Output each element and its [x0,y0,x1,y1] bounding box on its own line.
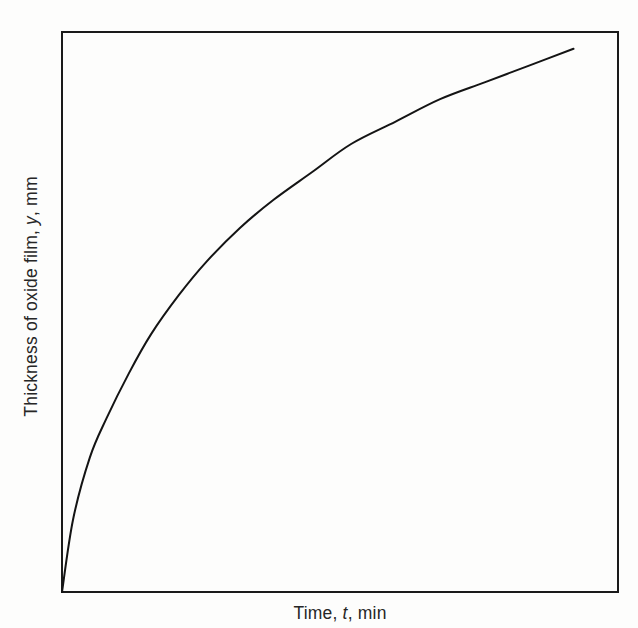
plot-frame [62,32,618,592]
plot-area [0,0,638,628]
chart-figure: Thickness of oxide film, y, mm Time, t, … [0,0,638,628]
data-curve-oxide-film [62,49,574,592]
